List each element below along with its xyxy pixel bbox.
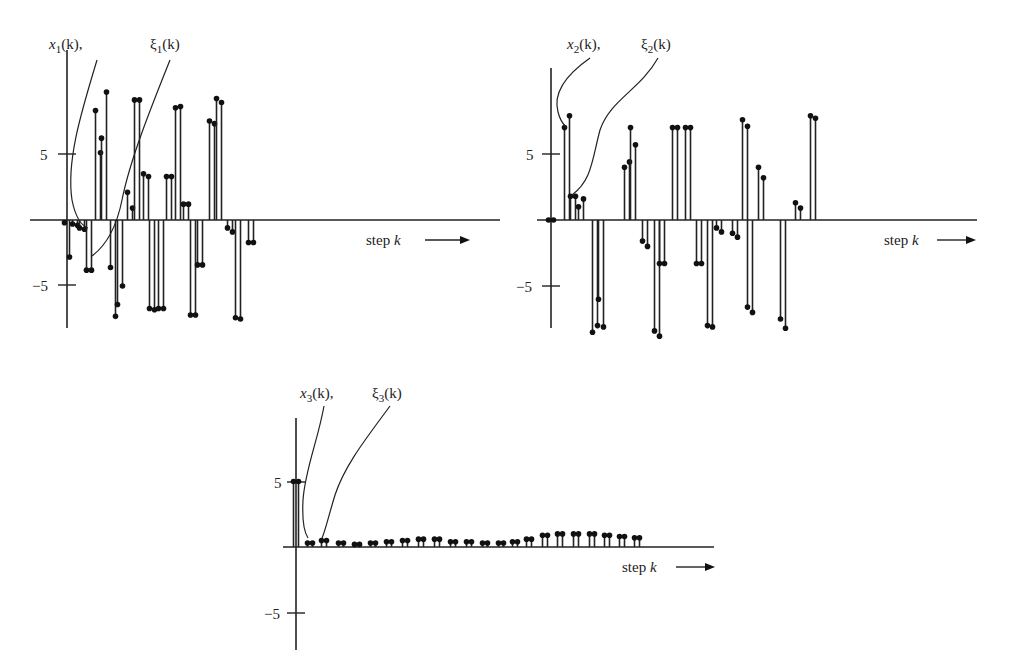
data-point-x [195,262,201,268]
data-point-xi [421,536,427,542]
data-point-x [628,125,634,131]
data-point-xi [104,89,110,95]
data-point-xi [341,540,347,546]
data-point-x [77,225,83,231]
data-point-xi [529,536,535,542]
data-point-xi [735,234,741,240]
data-point-xi [607,532,613,538]
data-point-x [181,201,187,207]
data-point-xi [595,323,601,329]
data-point-xi [813,116,819,122]
data-point-xi [161,306,167,312]
stem-plots-figure: 5 −5 x1(k), ξ1(k) step k 5 −5 x2(k), ξ2(… [0,0,1016,672]
data-point-x [432,536,438,542]
data-point-x [730,230,736,236]
data-point-xi [545,532,551,538]
arrow-icon [705,563,715,571]
x-axis-label: step k [366,232,401,248]
data-point-xi [67,254,73,260]
data-point-x [622,164,628,170]
data-point-xi [389,539,395,545]
data-point-xi [113,314,119,320]
legend-x1: x1(k), [48,36,82,55]
data-point-x [524,536,530,542]
data-point-xi [485,540,491,546]
leader-line-xi2 [572,58,658,195]
data-point-x [546,217,552,223]
stem-series [291,479,643,547]
data-point-x [496,540,502,546]
data-point-xi [193,312,199,318]
data-point-x [555,531,561,537]
data-point-x [225,225,231,231]
y-tick-label-neg5: −5 [516,279,532,295]
stem-series [546,113,819,339]
data-point-x [214,96,220,102]
data-point-xi [567,113,573,119]
data-point-xi [169,174,175,180]
y-tick-label-5: 5 [274,475,282,491]
data-point-xi [576,531,582,537]
data-point-x [173,105,179,111]
y-tick-label-5: 5 [40,147,48,163]
data-point-x [164,174,170,180]
data-point-xi [238,316,244,322]
data-point-xi [324,538,330,544]
data-point-xi [633,142,639,148]
data-point-xi [200,262,206,268]
data-point-x [233,315,239,321]
data-point-xi [357,542,363,548]
stem-series [62,89,257,322]
data-point-x [70,221,76,227]
data-point-x [125,189,131,195]
data-point-x [291,479,297,485]
data-point-x [352,542,358,548]
data-point-x [510,539,516,545]
data-point-x [336,540,342,546]
data-point-xi [405,538,411,544]
data-point-xi [219,100,225,106]
data-point-xi [98,150,104,156]
data-point-xi [710,324,716,330]
legend-xi3: ξ3(k) [372,385,402,404]
data-point-x [590,329,596,335]
leader-line-x3 [303,406,324,538]
data-point-x [93,108,99,114]
data-point-x [62,220,68,226]
data-point-xi [560,531,566,537]
data-point-x [576,204,582,210]
data-point-x [778,316,784,322]
data-point-xi [515,539,521,545]
data-point-x [540,532,546,538]
data-point-x [480,540,486,546]
data-point-xi [783,325,789,331]
data-point-xi [622,534,628,540]
data-point-x [132,97,138,103]
data-point-x [207,118,213,124]
data-point-x [147,306,153,312]
data-point-xi [750,310,756,316]
leader-line-x1 [71,60,97,228]
data-point-x [617,534,623,540]
data-point-xi [89,267,95,273]
data-point-xi [627,159,633,165]
legend-xi2: ξ2(k) [641,36,671,55]
data-point-xi [146,174,152,180]
data-point-x [400,538,406,544]
data-point-xi [437,536,443,542]
data-point-x [416,536,422,542]
data-point-x [448,539,454,545]
data-point-xi [657,333,663,339]
data-point-xi [310,540,316,546]
data-point-xi [645,244,651,250]
y-tick-label-5: 5 [526,147,534,163]
data-point-x [99,135,105,141]
data-point-x [756,164,762,170]
data-point-x [368,540,374,546]
data-point-x [683,125,689,131]
panel-x2: 5 −5 x2(k), ξ2(k) step k [516,36,977,339]
leader-line-x2 [557,58,590,127]
data-point-x [246,240,252,246]
data-point-xi [453,539,459,545]
arrow-icon [460,236,470,244]
